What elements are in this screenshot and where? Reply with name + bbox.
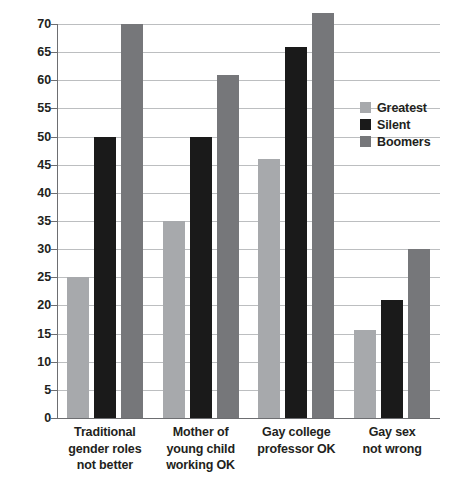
y-tick-label-25: 25 xyxy=(9,270,51,284)
category-label-line: Mother of xyxy=(153,424,249,441)
bar-boomers-3 xyxy=(312,13,334,418)
y-tick-label-20: 20 xyxy=(9,298,51,312)
y-axis-ticks: 0510152025303540455055606570 xyxy=(0,24,51,418)
x-axis-category-labels: Traditionalgender rolesnot betterMother … xyxy=(57,424,440,488)
category-label-3: Gay collegeprofessor OK xyxy=(249,424,345,457)
category-label-1: Traditionalgender rolesnot better xyxy=(57,424,153,474)
category-label-line: not better xyxy=(57,457,153,474)
legend-item-greatest[interactable]: Greatest xyxy=(360,100,460,115)
bar-chart: 0510152025303540455055606570 Traditional… xyxy=(0,0,470,491)
category-label-line: Traditional xyxy=(57,424,153,441)
y-tick-label-60: 60 xyxy=(9,73,51,87)
bar-boomers-1 xyxy=(121,24,143,418)
y-tick-label-5: 5 xyxy=(9,383,51,397)
x-axis-line xyxy=(57,418,440,419)
y-tick-label-45: 45 xyxy=(9,158,51,172)
bar-silent-2 xyxy=(190,137,212,418)
legend-label: Silent xyxy=(377,118,410,132)
category-label-2: Mother ofyoung childworking OK xyxy=(153,424,249,474)
category-label-line: young child xyxy=(153,441,249,458)
legend-item-boomers[interactable]: Boomers xyxy=(360,134,460,149)
y-tick-label-55: 55 xyxy=(9,101,51,115)
legend-swatch-icon xyxy=(360,102,371,113)
legend-label: Greatest xyxy=(377,101,427,115)
category-label-line: Gay college xyxy=(249,424,345,441)
y-tick-label-35: 35 xyxy=(9,214,51,228)
bar-greatest-1 xyxy=(67,277,89,418)
category-label-line: not wrong xyxy=(344,441,440,458)
y-tick-label-10: 10 xyxy=(9,355,51,369)
y-tick-label-30: 30 xyxy=(9,242,51,256)
category-label-line: professor OK xyxy=(249,441,345,458)
category-label-4: Gay sexnot wrong xyxy=(344,424,440,457)
legend-item-silent[interactable]: Silent xyxy=(360,117,460,132)
bars-container xyxy=(57,24,440,418)
bar-boomers-4 xyxy=(408,249,430,418)
chart-legend: GreatestSilentBoomers xyxy=(360,100,460,151)
legend-label: Boomers xyxy=(377,135,430,149)
legend-swatch-icon xyxy=(360,136,371,147)
legend-swatch-icon xyxy=(360,119,371,130)
y-tick-label-40: 40 xyxy=(9,186,51,200)
category-label-line: working OK xyxy=(153,457,249,474)
bar-silent-3 xyxy=(285,47,307,418)
category-label-line: gender roles xyxy=(57,441,153,458)
y-tick-label-15: 15 xyxy=(9,327,51,341)
bar-greatest-3 xyxy=(258,159,280,418)
y-tick-label-0: 0 xyxy=(9,411,51,425)
y-tick-label-70: 70 xyxy=(9,17,51,31)
y-tick-label-50: 50 xyxy=(9,130,51,144)
category-label-line: Gay sex xyxy=(344,424,440,441)
y-tick-label-65: 65 xyxy=(9,45,51,59)
bar-boomers-2 xyxy=(217,75,239,418)
bar-greatest-4 xyxy=(354,330,376,418)
bar-greatest-2 xyxy=(163,221,185,418)
bar-silent-1 xyxy=(94,137,116,418)
bar-silent-4 xyxy=(381,300,403,418)
